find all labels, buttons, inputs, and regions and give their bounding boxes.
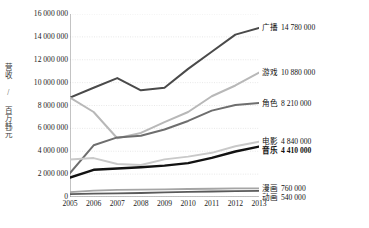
series-name: 漫画 <box>262 184 278 193</box>
series-label-5: 漫画760 000 <box>262 184 306 193</box>
series-value: 540 000 <box>281 193 306 202</box>
x-axis-tick-labels: 200520062007200820092010201120122013 <box>70 199 259 213</box>
y-tick-label: 8 000 000 <box>14 102 68 110</box>
series-name: 电影 <box>262 137 278 146</box>
series-label-1: 游戏10 880 000 <box>262 68 315 77</box>
series-value: 14 780 000 <box>281 23 315 32</box>
series-name: 动画 <box>262 193 278 202</box>
series-value: 4 410 000 <box>281 146 311 155</box>
line-chart: 营收 / 百万韩元 16 000 00014 000 00012 000 000… <box>0 0 369 228</box>
y-tick-label: 12 000 000 <box>14 56 68 64</box>
series-name: 音乐 <box>262 146 278 155</box>
series-name: 角色 <box>262 99 278 108</box>
series-value: 8 210 000 <box>281 99 311 108</box>
y-tick-label: 6 000 000 <box>14 124 68 132</box>
series-label-6: 动画540 000 <box>262 193 306 202</box>
y-tick-label: 16 000 000 <box>14 10 68 18</box>
series-value: 4 840 000 <box>281 137 311 146</box>
plot-svg <box>70 14 259 197</box>
y-tick-label: 2 000 000 <box>14 170 68 178</box>
y-tick-label: 4 000 000 <box>14 147 68 155</box>
series-end-labels: 广播14 780 000游戏10 880 000角色8 210 000电影4 8… <box>262 0 369 228</box>
y-axis-tick-labels: 16 000 00014 000 00012 000 00010 000 000… <box>14 0 68 228</box>
series-value: 10 880 000 <box>281 68 315 77</box>
y-axis-title-text: 营收 / 百万韩元 <box>4 63 12 138</box>
y-tick-label: 10 000 000 <box>14 79 68 87</box>
series-name: 广播 <box>262 23 278 32</box>
series-label-2: 角色8 210 000 <box>262 99 311 108</box>
series-line-2 <box>70 103 259 173</box>
series-label-4: 音乐4 410 000 <box>262 146 311 155</box>
series-label-3: 电影4 840 000 <box>262 137 311 146</box>
series-value: 760 000 <box>281 184 306 193</box>
series-label-0: 广播14 780 000 <box>262 23 315 32</box>
plot-area <box>70 14 259 197</box>
series-name: 游戏 <box>262 68 278 77</box>
y-tick-label: 14 000 000 <box>14 33 68 41</box>
